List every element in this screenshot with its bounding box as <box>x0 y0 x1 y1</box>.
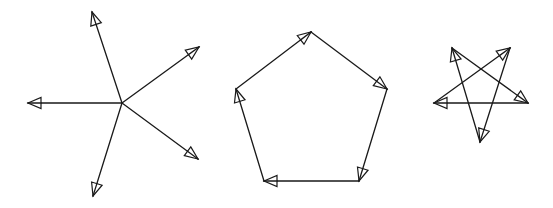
vector-shaft <box>92 12 122 103</box>
vector-shaft <box>359 89 387 181</box>
pentagon-vector-sum-arrow-5 <box>235 89 265 181</box>
vector-shaft <box>236 89 264 181</box>
pentagon-vector-figure <box>235 32 388 187</box>
vector-shaft <box>236 32 311 89</box>
pentagram-vector-sum-arrow-3 <box>450 48 480 142</box>
radiating-vectors-arrow-4 <box>92 103 122 196</box>
pentagon-vector-sum-arrow-3 <box>358 89 388 181</box>
vector-shaft <box>452 48 528 103</box>
radiating-vectors-arrow-2 <box>122 47 199 103</box>
pentagon-vector-sum-arrow-4 <box>264 176 359 187</box>
vector-shaft <box>434 48 510 103</box>
pentagram-vector-figure <box>434 48 528 142</box>
vector-shaft <box>122 103 198 159</box>
vector-diagram-canvas <box>0 0 553 208</box>
pentagram-vector-sum-arrow-4 <box>452 48 528 103</box>
radiating-vectors-arrow-3 <box>122 103 198 159</box>
vector-shaft <box>480 48 510 142</box>
pentagram-vector-sum-arrow-5 <box>434 98 528 109</box>
pentagon-vector-sum-arrow-1 <box>236 32 311 89</box>
radiating-vectors-arrow-5 <box>28 98 122 109</box>
vector-shaft <box>93 103 122 196</box>
vector-shaft <box>122 47 199 103</box>
pentagon-vector-sum-arrow-2 <box>311 32 387 89</box>
radiating-vectors-figure <box>28 12 199 196</box>
pentagram-vector-sum-arrow-2 <box>479 48 510 142</box>
vector-shaft <box>452 48 480 142</box>
pentagram-vector-sum-arrow-1 <box>434 48 510 103</box>
radiating-vectors-arrow-1 <box>91 12 122 103</box>
vector-shaft <box>311 32 387 89</box>
